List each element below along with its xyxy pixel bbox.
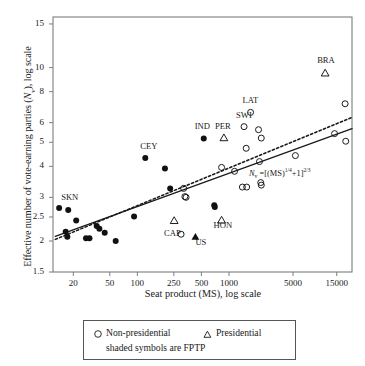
point-unlabeled xyxy=(64,234,70,240)
point-label-per: PER xyxy=(215,121,231,131)
y-tick-label-3: 3 xyxy=(22,191,44,201)
point-unlabeled xyxy=(292,153,298,159)
point-unlabeled xyxy=(102,230,108,236)
y-tick-label-5: 5 xyxy=(22,136,44,146)
y-tick-label-8: 8 xyxy=(22,86,44,96)
point-label-skn: SKN xyxy=(61,192,78,202)
point-unlabeled xyxy=(244,184,250,190)
model-curve-solid xyxy=(55,129,352,237)
figure-scatter-seat-product: Effective number of vote-earning parties… xyxy=(0,0,365,366)
point-label-cey: CEY xyxy=(140,141,157,151)
point-unlabeled xyxy=(96,226,102,232)
y-tick-label-2.5: 2.5 xyxy=(22,211,44,221)
y-tick-label-1.5: 1.5 xyxy=(22,266,44,276)
point-label-swi: SWI xyxy=(236,110,252,120)
x-tick-label-5000: 5000 xyxy=(271,278,315,288)
point-SKN xyxy=(56,205,62,211)
point-unlabeled xyxy=(86,235,92,241)
point-unlabeled xyxy=(162,166,168,172)
point-label-ind: IND xyxy=(195,121,210,131)
point-label-us: US xyxy=(195,237,206,247)
point-unlabeled xyxy=(219,164,225,170)
y-tick-label-2: 2 xyxy=(22,235,44,245)
point-label-cap: CAP xyxy=(164,228,181,238)
point-label-bra: BRA xyxy=(317,55,335,65)
point-unlabeled xyxy=(342,101,348,107)
point-BRA xyxy=(321,69,329,76)
point-unlabeled xyxy=(256,127,262,133)
plot-canvas xyxy=(0,0,365,366)
y-tick-label-15: 15 xyxy=(22,18,44,28)
x-tick-label-1000: 1000 xyxy=(207,278,251,288)
point-PER xyxy=(220,134,228,141)
point-unlabeled xyxy=(73,217,79,223)
y-tick-label-6: 6 xyxy=(22,117,44,127)
y-tick-label-10: 10 xyxy=(22,62,44,72)
point-CEY xyxy=(142,155,148,161)
point-unlabeled xyxy=(65,207,71,213)
point-unlabeled xyxy=(170,217,178,224)
point-unlabeled xyxy=(343,138,349,144)
x-tick-label-15000: 15000 xyxy=(315,278,359,288)
point-unlabeled xyxy=(131,214,137,220)
y-tick-label-4: 4 xyxy=(22,160,44,170)
point-unlabeled xyxy=(243,145,249,151)
point-unlabeled xyxy=(167,185,173,191)
point-unlabeled xyxy=(113,238,119,244)
point-IND xyxy=(201,135,207,141)
point-label-lat: LAT xyxy=(243,95,259,105)
point-label-hon: HON xyxy=(214,220,233,230)
point-SWI xyxy=(241,124,247,130)
point-unlabeled xyxy=(212,204,218,210)
point-unlabeled xyxy=(258,135,264,141)
